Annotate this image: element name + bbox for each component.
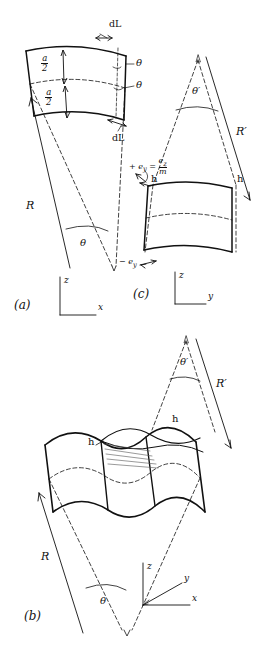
panel-c-radius-prime-label: R′: [236, 126, 247, 137]
panel-c-angle-prime-label: θ′: [192, 86, 200, 96]
panel-a-geometry: [26, 34, 134, 315]
panel-b-radius-prime-label: R′: [216, 378, 227, 389]
panel-a-theta-upper-label: θ: [136, 58, 142, 68]
panel-b-axis-y-label: y: [184, 574, 189, 583]
strain-negative-text: − e: [119, 257, 133, 266]
strain-positive-equals: =: [149, 162, 156, 171]
panel-a-axis-z-label: z: [64, 276, 69, 285]
panel-a-angle-label: θ: [80, 238, 86, 248]
panel-c-axis-y-label: y: [208, 292, 213, 301]
strain-positive-denominator: m: [159, 167, 167, 176]
panel-a-dl-top-label: dL: [109, 19, 121, 29]
strain-positive-fraction: ez m: [159, 157, 167, 176]
panel-a-theta-lower-label: θ: [136, 80, 142, 90]
thickness-upper-denominator: 2: [41, 64, 48, 73]
panel-b-radius-label: R: [41, 551, 49, 562]
panel-a-thickness-upper-label: a 2: [41, 54, 48, 73]
panel-b-geometry: [38, 336, 231, 636]
diagram-vector-layer: [0, 0, 264, 658]
panel-b-angle-label: θ: [100, 596, 106, 606]
panel-b-angle-prime-label: θ′: [180, 357, 188, 367]
panel-a-radius-label: R: [26, 200, 34, 211]
panel-c-strain-positive-label: + ey = ez m: [129, 157, 167, 176]
strain-positive-lhs: + e: [129, 162, 143, 171]
panel-b-h-right-label: h: [172, 414, 178, 424]
panel-b-h-left-label: h: [88, 437, 94, 447]
panel-a-id-label: (a): [14, 299, 31, 311]
thickness-lower-denominator: 2: [45, 98, 52, 107]
panel-c-axis-z-label: z: [179, 271, 184, 280]
panel-a-dl-bottom-label: dL: [112, 133, 124, 143]
panel-c-h-right-label: h: [237, 174, 243, 184]
panel-a-axis-x-label: x: [98, 303, 103, 312]
panel-b-axis-x-label: x: [192, 594, 197, 603]
panel-b-id-label: (b): [24, 610, 41, 622]
strain-positive-lhs-sub: y: [143, 165, 147, 173]
panel-a-thickness-lower-label: a 2: [45, 88, 52, 107]
strain-negative-sub: y: [133, 261, 137, 269]
panel-b-axis-z-label: z: [147, 562, 152, 571]
figure-canvas: a 2 a 2 dL dL θ θ R θ z x (a) θ′ R′ h h …: [0, 0, 264, 658]
panel-c-strain-negative-label: − ey: [119, 258, 137, 268]
panel-c-id-label: (c): [133, 288, 149, 300]
